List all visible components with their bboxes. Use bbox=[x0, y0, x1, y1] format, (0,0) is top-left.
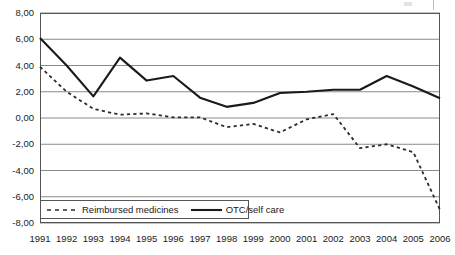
x-tick-label: 2003 bbox=[345, 234, 375, 244]
legend-item-reimbursed-medicines: Reimbursed medicines bbox=[46, 205, 179, 215]
x-tick-label: 1998 bbox=[212, 234, 242, 244]
chart-legend: Reimbursed medicines OTC/self care bbox=[40, 200, 249, 219]
x-tick-label: 2002 bbox=[318, 234, 348, 244]
y-tick-label: 6,00 bbox=[0, 34, 34, 44]
x-tick-label: 1991 bbox=[25, 234, 55, 244]
x-tick-label: 2004 bbox=[372, 234, 402, 244]
x-tick-label: 1992 bbox=[52, 234, 82, 244]
y-tick-label: -6,00 bbox=[0, 192, 34, 202]
x-tick-label: 2005 bbox=[398, 234, 428, 244]
gridlines bbox=[40, 13, 440, 223]
x-tick-label: 2006 bbox=[425, 234, 455, 244]
x-tick-label: 2000 bbox=[265, 234, 295, 244]
y-tick-label: 2,00 bbox=[0, 87, 34, 97]
legend-label-reimbursed-medicines: Reimbursed medicines bbox=[82, 205, 179, 215]
solid-line-swatch-icon bbox=[190, 206, 223, 214]
x-tick-label: 1994 bbox=[105, 234, 135, 244]
y-tick-label: -4,00 bbox=[0, 166, 34, 176]
y-tick-label: -8,00 bbox=[0, 218, 34, 228]
y-tick-label: 4,00 bbox=[0, 61, 34, 71]
x-tick-label: 2001 bbox=[292, 234, 322, 244]
legend-label-otc-self-care: OTC/self care bbox=[226, 205, 285, 215]
x-tick-label: 1999 bbox=[238, 234, 268, 244]
y-tick-label: 0,00 bbox=[0, 113, 34, 123]
y-tick-label: -2,00 bbox=[0, 139, 34, 149]
series-line-otc-self-care bbox=[40, 38, 440, 107]
dashed-line-swatch-icon bbox=[46, 206, 79, 214]
x-tick-label: 1997 bbox=[185, 234, 215, 244]
x-tick-label: 1996 bbox=[158, 234, 188, 244]
legend-item-otc-self-care: OTC/self care bbox=[190, 205, 285, 215]
x-tick-label: 1993 bbox=[78, 234, 108, 244]
x-tick-label: 1995 bbox=[132, 234, 162, 244]
y-tick-label: 8,00 bbox=[0, 8, 34, 18]
